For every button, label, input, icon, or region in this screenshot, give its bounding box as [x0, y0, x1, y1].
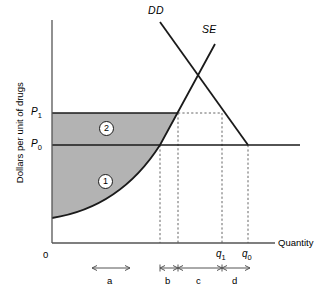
segment-label-d: d [232, 276, 237, 286]
economics-supply-demand-figure: Dollars per unit of drugs Quantity DD SE… [0, 0, 331, 302]
price-tick-p1-base: P [31, 106, 38, 117]
segment-label-b: b [165, 276, 170, 286]
quantity-tick-q0-sub: 0 [248, 253, 252, 262]
price-tick-p1: P1 [31, 107, 42, 120]
curve-label-se: SE [202, 24, 217, 35]
quantity-tick-q0: q0 [242, 249, 252, 262]
quantity-tick-q1-sub: 1 [222, 253, 226, 262]
segment-arrow-b [160, 265, 178, 272]
price-tick-p0-base: P [31, 138, 38, 149]
shaded-region-2 [52, 113, 178, 145]
price-tick-p0: P0 [31, 139, 42, 152]
y-axis-title: Dollars per unit of drugs [15, 68, 25, 198]
segment-arrow-a [92, 266, 130, 271]
segment-label-a: a [107, 276, 112, 286]
origin-label: 0 [43, 250, 48, 260]
chart-canvas [0, 0, 331, 302]
segment-arrow-d [222, 266, 250, 271]
price-tick-p0-sub: 0 [38, 143, 42, 152]
curve-label-dd: DD [148, 5, 164, 16]
x-axis-title: Quantity [278, 238, 313, 248]
demand-curve-dd [160, 22, 248, 145]
segment-label-c: c [196, 276, 201, 286]
segment-arrow-c [178, 265, 222, 272]
quantity-tick-q1: q1 [216, 249, 226, 262]
price-tick-p1-sub: 1 [38, 111, 42, 120]
region-badge-2: 2 [99, 121, 114, 136]
region-badge-1: 1 [98, 174, 113, 189]
